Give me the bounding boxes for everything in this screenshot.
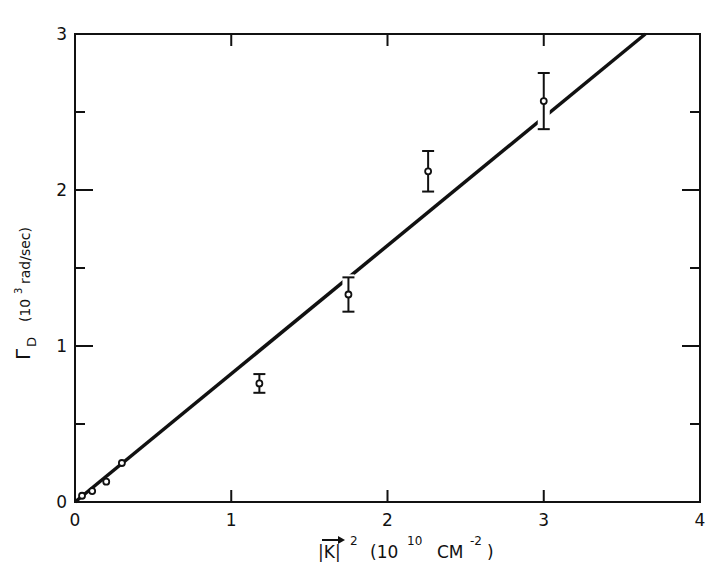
data-point: [79, 493, 85, 499]
y-tick-label: 1: [56, 336, 67, 356]
y-label-symbol: Γ: [11, 348, 35, 360]
y-tick-label: 3: [56, 24, 67, 44]
data-points: [79, 70, 550, 499]
x-tick-label: 1: [226, 510, 237, 530]
data-point: [541, 98, 547, 104]
y-tick-label: 0: [56, 492, 67, 512]
data-point: [103, 479, 109, 485]
y-label-unit-rest: rad/sec): [17, 227, 33, 284]
data-point: [256, 380, 262, 386]
x-label-close: ): [487, 542, 494, 562]
x-label-base: |K|: [318, 542, 341, 562]
chart: 012340123 |K| 2 (10 10 CM -2 ) Γ D (10 3…: [0, 0, 727, 574]
data-point: [119, 460, 125, 466]
y-axis-label: Γ D (10 3 rad/sec): [11, 227, 39, 360]
x-tick-label: 2: [382, 510, 393, 530]
y-tick-label: 2: [56, 180, 67, 200]
x-label-unit-exp2: -2: [470, 534, 482, 548]
plot-frame: [75, 34, 700, 502]
y-label-sub: D: [24, 337, 39, 347]
x-label-unit-exp: 10: [407, 534, 422, 548]
x-label-unit-mid: CM: [437, 542, 464, 562]
y-label-unit-exp: 3: [13, 288, 24, 294]
y-label-unit: (10: [17, 299, 33, 322]
x-axis-label: |K| 2 (10 10 CM -2 ): [318, 534, 494, 562]
x-tick-label: 4: [695, 510, 706, 530]
x-label-exp: 2: [350, 534, 358, 548]
data-point: [425, 168, 431, 174]
x-tick-label: 3: [538, 510, 549, 530]
data-point: [345, 292, 351, 298]
fit-line: [75, 34, 645, 502]
data-point: [89, 488, 95, 494]
x-tick-label: 0: [70, 510, 81, 530]
axis-ticks: 012340123: [56, 24, 705, 530]
x-label-unit: (10: [370, 542, 398, 562]
